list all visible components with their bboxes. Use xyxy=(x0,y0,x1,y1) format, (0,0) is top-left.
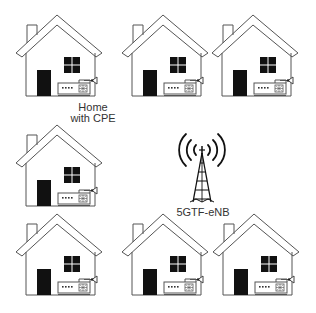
house-with-cpe-icon xyxy=(16,125,102,206)
radio-tower-icon xyxy=(179,134,225,202)
house-with-cpe-icon xyxy=(122,15,208,96)
house-with-cpe-icon xyxy=(212,15,298,96)
network-diagram xyxy=(0,0,316,313)
base-station-label: 5GTF-eNB xyxy=(176,207,230,218)
home-with-cpe-label: Home with CPE xyxy=(70,102,116,124)
house-with-cpe-icon xyxy=(16,15,102,96)
house-with-cpe-icon xyxy=(16,214,102,295)
house-with-cpe-icon xyxy=(213,214,299,295)
house-with-cpe-icon xyxy=(122,214,208,295)
home-label-line2: with CPE xyxy=(70,113,116,124)
